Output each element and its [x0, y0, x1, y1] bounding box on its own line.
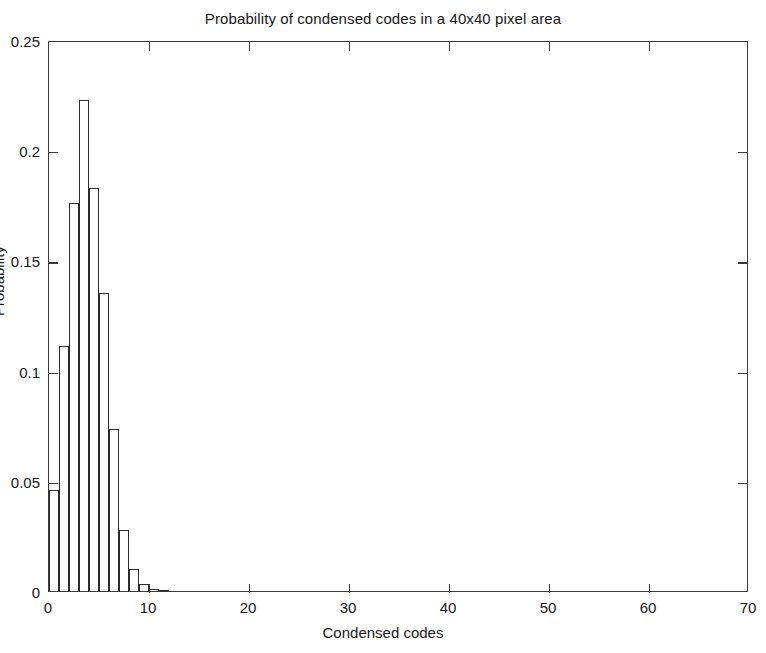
x-tick-label: 20 — [240, 599, 257, 616]
y-tick-label: 0.05 — [0, 473, 40, 490]
page-title: Probability of condensed codes in a 40x4… — [0, 10, 766, 27]
y-tick — [49, 483, 58, 484]
x-tick-label: 50 — [540, 599, 557, 616]
x-tick-label: 10 — [140, 599, 157, 616]
bar — [129, 569, 139, 591]
bar — [149, 589, 159, 591]
y-tick-label: 0.1 — [0, 363, 40, 380]
bar — [99, 293, 109, 591]
y-axis-label: Probability — [0, 246, 7, 316]
bar — [79, 100, 89, 591]
y-tick-label: 0.2 — [0, 143, 40, 160]
x-tick — [149, 584, 150, 593]
bars-layer — [49, 42, 747, 591]
bar — [159, 590, 169, 591]
x-tick — [649, 584, 650, 593]
y-tick-label: 0.25 — [0, 33, 40, 50]
x-tick-top — [149, 42, 150, 51]
x-tick-label: 40 — [440, 599, 457, 616]
plot-area — [48, 41, 748, 592]
y-tick-right — [738, 152, 747, 153]
x-tick-top — [649, 42, 650, 51]
y-tick-label: 0 — [0, 584, 40, 601]
x-tick-label: 70 — [740, 599, 757, 616]
figure-canvas: Probability of condensed codes in a 40x4… — [0, 0, 766, 653]
x-axis-label: Condensed codes — [0, 624, 766, 641]
y-tick — [49, 152, 58, 153]
bar — [109, 429, 119, 591]
bar — [69, 203, 79, 591]
x-tick-top — [349, 42, 350, 51]
x-tick — [249, 584, 250, 593]
bar — [139, 584, 149, 591]
x-tick — [549, 584, 550, 593]
x-tick-top — [549, 42, 550, 51]
x-tick-top — [449, 42, 450, 51]
y-tick-right — [738, 262, 747, 263]
x-tick — [349, 584, 350, 593]
y-tick — [49, 373, 58, 374]
bar — [49, 490, 59, 591]
x-tick-label: 0 — [44, 599, 52, 616]
x-tick-label: 30 — [340, 599, 357, 616]
bar — [59, 346, 69, 591]
x-tick-top — [249, 42, 250, 51]
x-tick-label: 60 — [640, 599, 657, 616]
y-tick-right — [738, 373, 747, 374]
x-tick — [449, 584, 450, 593]
y-tick — [49, 262, 58, 263]
y-tick-right — [738, 483, 747, 484]
bar — [89, 188, 99, 591]
bar — [119, 530, 129, 591]
